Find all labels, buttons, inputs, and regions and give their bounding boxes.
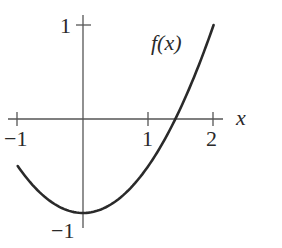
- x-tick-label-1: 1: [142, 126, 153, 151]
- y-tick-label-1: 1: [60, 13, 71, 38]
- x-tick-label-neg1: −1: [4, 126, 27, 151]
- axes: [8, 15, 223, 228]
- x-tick-label-2: 2: [206, 126, 217, 151]
- function-plot: 1 −1 −1 1 2 x f(x): [0, 0, 282, 248]
- y-tick-label-neg1: −1: [51, 218, 74, 243]
- curve-label: f(x): [151, 30, 182, 55]
- x-axis-label: x: [235, 105, 246, 130]
